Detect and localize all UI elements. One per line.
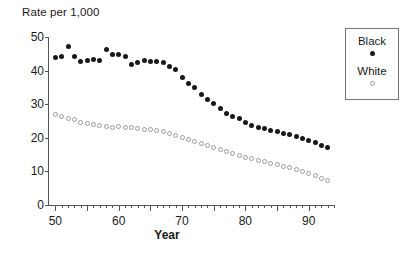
x-axis-tick-mark: [112, 205, 113, 208]
data-point-white: [85, 121, 90, 126]
data-point-black: [300, 136, 305, 141]
data-point-black: [205, 97, 210, 102]
data-point-black: [306, 138, 311, 143]
x-axis-tick-mark: [315, 205, 316, 208]
data-point-black: [167, 64, 172, 69]
y-axis-tick-mark: [45, 104, 49, 105]
x-axis-tick-mark: [188, 205, 189, 208]
data-point-white: [180, 135, 185, 140]
data-point-black: [116, 52, 121, 57]
y-axis-tick-label: 30: [31, 97, 44, 111]
data-point-white: [123, 125, 128, 130]
data-point-white: [275, 162, 280, 167]
data-point-white: [129, 125, 134, 130]
x-axis-tick-mark: [201, 205, 202, 208]
data-point-black: [186, 81, 191, 86]
plot-area: 010203040505060708090: [48, 37, 334, 206]
data-point-white: [110, 125, 115, 130]
x-axis-tick-mark: [176, 205, 177, 208]
x-axis-tick-mark: [264, 205, 265, 208]
x-axis-tick-mark: [277, 205, 278, 211]
x-axis-tick-mark: [87, 205, 88, 211]
x-axis-tick-mark: [106, 205, 107, 208]
data-point-black: [142, 58, 147, 63]
x-axis-tick-mark: [252, 205, 253, 208]
x-axis-tick-mark: [258, 205, 259, 208]
data-point-black: [85, 58, 90, 63]
data-point-white: [97, 123, 102, 128]
data-point-white: [104, 124, 109, 129]
x-axis-tick-mark: [207, 205, 208, 208]
data-point-white: [192, 139, 197, 144]
y-axis-tick-mark: [45, 171, 49, 172]
data-point-black: [268, 128, 273, 133]
data-point-black: [129, 62, 134, 67]
x-axis-tick-mark: [93, 205, 94, 208]
data-point-white: [173, 133, 178, 138]
data-point-white: [66, 116, 71, 121]
data-point-black: [72, 54, 77, 59]
data-point-white: [116, 124, 121, 129]
data-point-black: [224, 111, 229, 116]
y-axis-tick-label: 50: [31, 30, 44, 44]
data-point-white: [199, 141, 204, 146]
x-axis-tick-mark: [81, 205, 82, 208]
data-point-black: [97, 58, 102, 63]
x-axis-tick-mark: [239, 205, 240, 208]
legend-item-black: Black: [346, 35, 398, 56]
x-axis-tick-mark: [328, 205, 329, 208]
x-axis-tick-mark: [245, 205, 246, 211]
x-axis-tick-mark: [131, 205, 132, 208]
legend: Black White: [345, 28, 399, 100]
x-axis-tick-mark: [302, 205, 303, 208]
data-point-black: [230, 114, 235, 119]
x-axis-tick-mark: [125, 205, 126, 208]
data-point-white: [249, 156, 254, 161]
data-point-black: [237, 116, 242, 121]
data-point-black: [123, 54, 128, 59]
data-point-black: [281, 131, 286, 136]
x-axis-tick-mark: [226, 205, 227, 208]
data-point-white: [53, 112, 58, 117]
data-point-black: [275, 129, 280, 134]
y-axis-tick-label: 40: [31, 64, 44, 78]
data-point-white: [256, 158, 261, 163]
data-point-white: [294, 167, 299, 172]
x-axis-tick-mark: [296, 205, 297, 208]
x-axis-tick-label: 90: [302, 214, 315, 228]
data-point-white: [281, 164, 286, 169]
x-axis-tick-mark: [290, 205, 291, 208]
data-point-black: [59, 54, 64, 59]
data-point-white: [230, 151, 235, 156]
x-axis-tick-mark: [62, 205, 63, 208]
data-point-black: [319, 143, 324, 148]
data-point-white: [59, 114, 64, 119]
data-point-white: [186, 137, 191, 142]
data-point-white: [211, 145, 216, 150]
data-point-white: [237, 153, 242, 158]
data-point-black: [256, 125, 261, 130]
data-point-black: [78, 59, 83, 64]
y-axis-tick-label: 10: [31, 164, 44, 178]
x-axis-tick-mark: [55, 205, 56, 211]
y-axis-tick-mark: [45, 71, 49, 72]
legend-label-black: Black: [346, 35, 398, 48]
x-axis-tick-mark: [138, 205, 139, 208]
x-axis-tick-mark: [271, 205, 272, 208]
x-axis-tick-mark: [195, 205, 196, 208]
data-point-white: [135, 126, 140, 131]
data-point-white: [319, 176, 324, 181]
data-point-black: [173, 67, 178, 72]
data-point-white: [161, 129, 166, 134]
x-axis-tick-mark: [144, 205, 145, 208]
x-axis-tick-mark: [163, 205, 164, 208]
legend-swatch-open-circle-icon: [370, 81, 375, 86]
y-axis-tick-mark: [45, 37, 49, 38]
data-point-black: [110, 52, 115, 57]
data-point-black: [53, 55, 58, 60]
data-point-black: [180, 75, 185, 80]
data-point-black: [66, 44, 71, 49]
data-point-black: [211, 101, 216, 106]
data-point-black: [262, 126, 267, 131]
x-axis-tick-mark: [233, 205, 234, 208]
